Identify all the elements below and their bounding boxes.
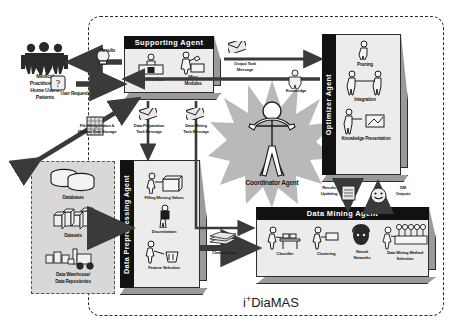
optimizer-module-label-2: Knowledge Presentation [330, 137, 402, 142]
supporting-agent-title: Supporting Agent [124, 36, 214, 49]
mining-agent-title: Data Mining Agent [256, 207, 429, 220]
results-label: Results [100, 49, 134, 54]
warehouse-forklift-icon [44, 245, 102, 271]
optimizer-agent-title: Optimizer Agent [322, 34, 336, 175]
misc-modules-icon [178, 51, 206, 75]
mining-module-label-3b: Selection [374, 257, 436, 261]
dm-method-selection-icon [382, 222, 428, 250]
mining-module-label-0: Classifier [262, 252, 308, 256]
data-mining-task-label-2: Task Message [168, 130, 224, 134]
people-icon [20, 41, 70, 75]
preprocessing-module-label-0: Filling Missing Values [124, 196, 204, 200]
preprocessing-module-label-2: Feature Selection [124, 266, 204, 270]
question-mark-icon: ? [50, 75, 66, 91]
diagram-canvas: Coordinator Agent Medical Practitioners/… [0, 0, 458, 333]
system-logo: i+DiaMAS [243, 294, 299, 310]
integration-icon [344, 70, 386, 96]
results-updating-label-1: Results [312, 186, 346, 190]
knowledge-presentation-icon [340, 107, 388, 135]
datasource-label-warehouse-1: Data Warehouse/ [30, 273, 116, 278]
output-task-label-1: Output Task [214, 62, 276, 66]
dm-outputs-label-1: DM [386, 186, 420, 190]
datasource-label-warehouse-2: Data Repositories [30, 280, 116, 285]
users-label-line1: Medical [4, 74, 86, 79]
optimizer-module-label-1: Integration [336, 98, 394, 103]
user-interface-icon [136, 53, 166, 75]
discretization-icon [156, 204, 174, 228]
datasource-label-datasets: Datasets [33, 234, 113, 239]
output-task-label-2: Message [214, 68, 276, 72]
neural-networks-icon [350, 224, 372, 248]
mining-module-label-1: Clustering [305, 252, 347, 256]
clustering-icon [310, 226, 340, 250]
mining-module-label-3a: Data Mining Method [374, 251, 436, 255]
database-cylinders-icon [47, 167, 99, 193]
optimizer-module-label-0: Pruning [338, 63, 392, 68]
envelope-icon [139, 108, 157, 120]
supporting-module-label-0: User Interface [127, 78, 175, 83]
supporting-module-label-1b: Modules [175, 82, 211, 87]
data-blocks-icon [50, 206, 96, 232]
pruning-icon [356, 40, 372, 60]
stacked-sheets-icon [208, 232, 238, 248]
dm-outputs-label-2: Outputs [386, 192, 420, 196]
datasource-label-databases: Databases [33, 196, 113, 201]
user-request-label: User Request [48, 92, 100, 97]
preprocessing-module-label-1: Discretization [124, 230, 204, 234]
users-label-line2: Practitioners/ [4, 81, 86, 86]
logo-suffix: DiaMAS [251, 295, 299, 310]
knowledge-label: Knowledge [276, 89, 316, 93]
envelope-icon [228, 41, 246, 53]
svg-text:?: ? [56, 78, 61, 89]
knowledge-person-icon [287, 69, 303, 89]
classifier-icon [266, 226, 302, 250]
filling-missing-values-icon [145, 172, 183, 194]
smiley-icon [370, 187, 387, 204]
results-updating-label-2: Updating [312, 192, 346, 196]
cleaned-data-label: Cleaned Data [198, 251, 250, 255]
feature-selection-icon [144, 240, 184, 264]
envelope-icon [186, 108, 204, 120]
person-star-icon [246, 100, 298, 178]
data-mining-task-label-1: Data Mining [168, 124, 224, 128]
